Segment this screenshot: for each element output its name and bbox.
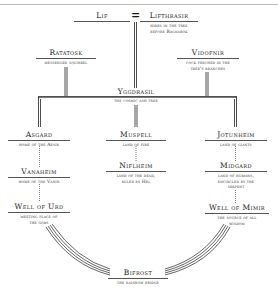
divider — [8, 177, 70, 178]
divider — [140, 21, 198, 22]
node-yggdrasil: Yggdrasil the cosmic ash tree — [105, 87, 167, 104]
divider — [106, 171, 166, 172]
divider — [36, 58, 96, 59]
node-yggdrasil-caption: the cosmic ash tree — [105, 98, 167, 104]
node-well-of-urd: Well of Urd meeting place of the gods — [8, 202, 70, 225]
node-bifrost-caption: the rainbow bridge — [108, 280, 168, 286]
node-well-of-mimir-caption-2: wisdom — [205, 221, 269, 227]
node-bifrost: Bifrost the rainbow bridge — [108, 268, 168, 286]
node-lifthrasir-title: Lifthrasir — [140, 11, 198, 20]
node-vanaheim-caption: home of the Vanir — [8, 179, 70, 185]
node-vidofnir-caption-1: cock perched in the — [177, 60, 239, 66]
node-ratatosk: Ratatosk messenger squirrel — [36, 48, 96, 66]
node-vanaheim-title: Vanaheim — [8, 167, 70, 176]
node-lif-title: Lif — [74, 11, 130, 20]
node-vidofnir: Vidofnir cock perched in the tree's bran… — [177, 48, 239, 71]
connector-lines — [0, 0, 278, 297]
node-well-of-mimir-title: Well of Mimir — [205, 203, 269, 212]
node-ratatosk-title: Ratatosk — [36, 48, 96, 57]
node-asgard-caption: home of the Aesir — [8, 142, 70, 148]
divider — [106, 140, 166, 141]
node-midgard-title: Midgard — [205, 161, 267, 170]
divider — [8, 212, 70, 213]
node-yggdrasil-title: Yggdrasil — [105, 87, 167, 96]
node-vidofnir-caption-2: tree's branches — [177, 66, 239, 72]
node-jotunheim-caption: land of giants — [205, 142, 267, 148]
node-midgard-caption-3: serpent — [205, 184, 267, 190]
divider — [205, 140, 267, 141]
node-well-of-urd-title: Well of Urd — [8, 202, 70, 211]
node-asgard: Asgard home of the Aesir — [8, 130, 70, 148]
divider — [74, 21, 130, 22]
node-muspell-title: Muspell — [106, 130, 166, 139]
node-muspell-caption: land of fire — [106, 142, 166, 148]
divider — [205, 171, 267, 172]
node-lifthrasir-caption-2: before Ragnarok — [140, 29, 198, 35]
node-jotunheim: Jotunheim land of giants — [205, 130, 267, 148]
node-vidofnir-title: Vidofnir — [177, 48, 239, 57]
divider — [8, 140, 70, 141]
divider — [108, 278, 168, 279]
node-muspell: Muspell land of fire — [106, 130, 166, 148]
node-well-of-urd-caption-2: the gods — [8, 220, 70, 226]
node-bifrost-title: Bifrost — [108, 268, 168, 277]
node-vanaheim: Vanaheim home of the Vanir — [8, 167, 70, 185]
node-ratatosk-caption: messenger squirrel — [36, 60, 96, 66]
divider — [205, 213, 269, 214]
node-lif: Lif — [74, 11, 130, 23]
node-well-of-mimir: Well of Mimir the source of all wisdom — [205, 203, 269, 226]
node-midgard: Midgard land of humans, encircled by the… — [205, 161, 267, 190]
node-niflheim: Niflheim land of the dead, ruled by Hel — [106, 161, 166, 184]
node-jotunheim-title: Jotunheim — [205, 130, 267, 139]
node-niflheim-title: Niflheim — [106, 161, 166, 170]
node-lifthrasir: Lifthrasir hides in the tree before Ragn… — [140, 11, 198, 34]
node-asgard-title: Asgard — [8, 130, 70, 139]
divider — [177, 58, 239, 59]
equals-connector: = — [131, 10, 140, 21]
node-niflheim-caption-2: ruled by Hel — [106, 179, 166, 185]
